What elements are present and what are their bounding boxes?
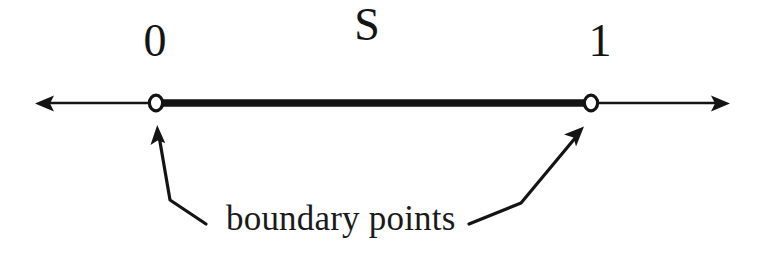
number-line-figure: 0 S 1 boundary points (0, 0, 760, 260)
tick-label-zero: 0 (133, 18, 177, 64)
annotation-boundary-points: boundary points (226, 201, 456, 236)
leader-line-right (469, 137, 576, 224)
leader-arrowhead-left (151, 125, 166, 145)
endpoint-marker-one (584, 95, 597, 111)
leader-arrowhead-right (564, 127, 584, 147)
endpoint-marker-zero (149, 95, 162, 111)
tick-label-one: 1 (578, 18, 622, 64)
set-label-s: S (345, 2, 389, 48)
leader-line-left (159, 136, 206, 224)
